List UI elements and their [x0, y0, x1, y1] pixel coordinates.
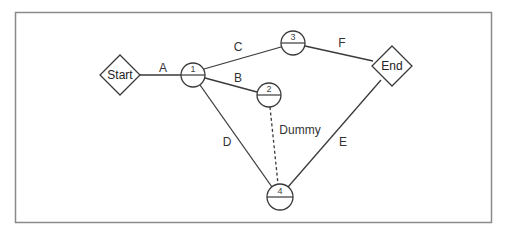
node-1-number: 1: [190, 64, 195, 74]
node-3-number: 3: [290, 32, 295, 42]
start-terminal: Start: [100, 55, 140, 95]
end-label: End: [381, 59, 402, 73]
dummy-activity-arrow: [270, 107, 278, 184]
activity-e-label: E: [339, 135, 347, 149]
activity-a-label: A: [159, 61, 167, 75]
activity-b-arrow: [205, 78, 257, 92]
node-2-number: 2: [266, 84, 271, 94]
network-diagram: Start End 1 2 3 4 A B C D E F Dummy: [0, 0, 507, 233]
node-4-number: 4: [277, 186, 282, 196]
activity-b-label: B: [234, 71, 242, 85]
activity-c-arrow: [204, 47, 281, 69]
activity-d-label: D: [223, 135, 232, 149]
event-node-1: 1: [181, 63, 205, 87]
activity-c-label: C: [234, 40, 243, 54]
event-node-3: 3: [281, 31, 305, 55]
dummy-activity-label: Dummy: [279, 123, 320, 137]
activity-f-label: F: [338, 36, 345, 50]
end-terminal: End: [372, 46, 412, 86]
start-label: Start: [107, 68, 133, 82]
event-node-4: 4: [267, 184, 293, 210]
diagram-frame: [16, 13, 492, 223]
event-node-2: 2: [257, 83, 281, 107]
